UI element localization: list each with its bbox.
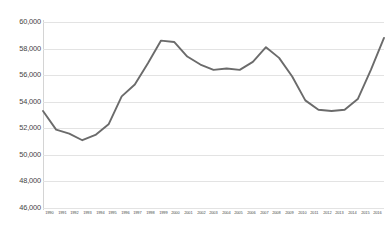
x-axis-tick-label: 2009	[283, 210, 295, 216]
x-axis-tick-label: 2013	[334, 210, 346, 216]
gridline	[43, 208, 384, 209]
x-axis-tick-label: 1998	[144, 210, 156, 216]
x-axis-tick-label: 2014	[346, 210, 358, 216]
y-axis-tick-label: 58,000	[3, 45, 41, 52]
y-axis-tick-label: 52,000	[3, 124, 41, 131]
x-axis-labels: 1990199119921993199419951996199719981999…	[43, 210, 384, 224]
y-axis-tick-label: 50,000	[3, 151, 41, 158]
y-axis-tick-label: 54,000	[3, 98, 41, 105]
x-axis-tick-label: 1991	[56, 210, 68, 216]
x-axis-tick-label: 2005	[233, 210, 245, 216]
x-axis-tick-label: 1996	[119, 210, 131, 216]
x-axis-tick-label: 2001	[182, 210, 194, 216]
x-axis-tick-label: 2002	[195, 210, 207, 216]
series-line	[43, 22, 384, 208]
y-axis-tick-label: 56,000	[3, 71, 41, 78]
x-axis-tick-label: 1997	[132, 210, 144, 216]
x-axis-tick-label: 1990	[43, 210, 55, 216]
x-axis-tick-label: 2008	[271, 210, 283, 216]
series-path	[43, 38, 384, 140]
y-axis-tick-label: 60,000	[3, 18, 41, 25]
x-axis-tick-label: 2003	[207, 210, 219, 216]
y-axis-tick-label: 48,000	[3, 177, 41, 184]
x-axis-tick-label: 2006	[245, 210, 257, 216]
x-axis-tick-label: 2011	[308, 210, 320, 216]
plot-area	[43, 22, 384, 208]
x-axis-tick-label: 2012	[321, 210, 333, 216]
line-chart: 60,00058,00056,00054,00052,00050,00048,0…	[0, 0, 390, 233]
y-axis-tick-label: 46,000	[3, 204, 41, 211]
x-axis-tick-label: 1993	[81, 210, 93, 216]
x-axis-tick-label: 2016	[372, 210, 384, 216]
x-axis-tick-label: 2010	[296, 210, 308, 216]
x-axis-tick-label: 1995	[106, 210, 118, 216]
x-axis-tick-label: 2004	[220, 210, 232, 216]
x-axis-tick-label: 1992	[69, 210, 81, 216]
x-axis-tick-label: 1994	[94, 210, 106, 216]
y-axis-labels: 60,00058,00056,00054,00052,00050,00048,0…	[0, 0, 41, 233]
x-axis-tick-label: 2000	[170, 210, 182, 216]
x-axis-tick-label: 1999	[157, 210, 169, 216]
x-axis-tick-label: 2015	[359, 210, 371, 216]
x-axis-tick-label: 2007	[258, 210, 270, 216]
